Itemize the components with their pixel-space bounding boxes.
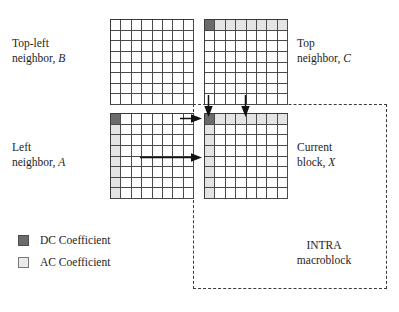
coefficient-cell-zero — [278, 63, 288, 74]
coefficient-cell-zero — [215, 125, 225, 136]
coefficient-cell-zero — [153, 20, 163, 31]
coefficient-cell-zero — [236, 84, 246, 95]
coefficient-cell-zero — [163, 146, 173, 157]
block-grid-top-neighbor — [204, 19, 288, 105]
coefficient-cell-zero — [132, 94, 142, 105]
coefficient-cell-ac — [205, 178, 215, 189]
coefficient-cell-zero — [153, 41, 163, 52]
coefficient-cell-zero — [184, 114, 194, 125]
coefficient-cell-zero — [132, 114, 142, 125]
coefficient-cell-ac — [205, 167, 215, 178]
coefficient-cell-ac — [247, 114, 257, 125]
coefficient-cell-zero — [247, 157, 257, 168]
coefficient-cell-zero — [121, 52, 131, 63]
label-top-neighbor-line1: Top — [297, 36, 351, 51]
coefficient-cell-ac — [215, 20, 225, 31]
coefficient-cell-zero — [184, 63, 194, 74]
coefficient-cell-zero — [226, 84, 236, 95]
coefficient-cell-zero — [205, 52, 215, 63]
coefficient-cell-zero — [236, 52, 246, 63]
coefficient-cell-zero — [173, 20, 183, 31]
label-top-left-neighbor: Top-left neighbor, B — [12, 36, 65, 66]
coefficient-cell-zero — [247, 125, 257, 136]
label-left-neighbor-line2: neighbor, A — [12, 155, 65, 170]
coefficient-cell-zero — [163, 167, 173, 178]
coefficient-cell-ac — [236, 20, 246, 31]
coefficient-cell-zero — [153, 146, 163, 157]
coefficient-cell-zero — [132, 84, 142, 95]
coefficient-cell-zero — [236, 157, 246, 168]
coefficient-cell-zero — [163, 20, 173, 31]
coefficient-cell-dc — [111, 114, 121, 125]
coefficient-cell-zero — [184, 84, 194, 95]
coefficient-cell-zero — [121, 31, 131, 42]
coefficient-cell-zero — [173, 94, 183, 105]
coefficient-cell-zero — [173, 73, 183, 84]
coefficient-cell-zero — [226, 63, 236, 74]
coefficient-cell-zero — [257, 135, 267, 146]
coefficient-cell-zero — [121, 84, 131, 95]
coefficient-cell-dc — [205, 114, 215, 125]
coefficient-cell-zero — [184, 157, 194, 168]
coefficient-cell-zero — [205, 94, 215, 105]
coefficient-cell-zero — [205, 84, 215, 95]
coefficient-cell-zero — [173, 146, 183, 157]
coefficient-cell-zero — [267, 167, 277, 178]
coefficient-cell-zero — [236, 167, 246, 178]
coefficient-cell-zero — [215, 146, 225, 157]
coefficient-cell-ac — [111, 157, 121, 168]
coefficient-cell-zero — [111, 84, 121, 95]
coefficient-cell-zero — [257, 178, 267, 189]
coefficient-cell-zero — [121, 188, 131, 199]
coefficient-cell-zero — [121, 146, 131, 157]
coefficient-cell-zero — [111, 20, 121, 31]
label-current-block-symbol: X — [328, 156, 335, 168]
coefficient-cell-zero — [142, 125, 152, 136]
coefficient-cell-zero — [267, 31, 277, 42]
coefficient-cell-zero — [278, 135, 288, 146]
coefficient-cell-zero — [142, 31, 152, 42]
label-top-left-neighbor-prefix: neighbor, — [12, 52, 58, 64]
coefficient-cell-ac — [267, 114, 277, 125]
ac-coefficient-swatch-icon — [18, 257, 29, 268]
coefficient-cell-zero — [226, 94, 236, 105]
coefficient-cell-zero — [184, 188, 194, 199]
coefficient-cell-zero — [226, 178, 236, 189]
coefficient-cell-ac — [111, 167, 121, 178]
label-intra-macroblock: INTRA macroblock — [272, 238, 376, 268]
coefficient-cell-zero — [184, 52, 194, 63]
coefficient-cell-zero — [163, 135, 173, 146]
coefficient-cell-zero — [267, 84, 277, 95]
coefficient-cell-zero — [267, 146, 277, 157]
coefficient-cell-zero — [247, 73, 257, 84]
coefficient-cell-zero — [184, 41, 194, 52]
coefficient-cell-ac — [247, 20, 257, 31]
coefficient-cell-zero — [247, 52, 257, 63]
coefficient-cell-zero — [132, 135, 142, 146]
coefficient-cell-zero — [236, 31, 246, 42]
coefficient-cell-zero — [257, 146, 267, 157]
coefficient-cell-zero — [247, 146, 257, 157]
coefficient-cell-zero — [236, 135, 246, 146]
coefficient-cell-zero — [257, 73, 267, 84]
coefficient-cell-zero — [278, 84, 288, 95]
coefficient-cell-zero — [132, 157, 142, 168]
dc-coefficient-swatch-icon — [18, 235, 29, 246]
coefficient-cell-zero — [163, 63, 173, 74]
coefficient-cell-zero — [278, 178, 288, 189]
coefficient-cell-zero — [267, 52, 277, 63]
coefficient-cell-zero — [184, 135, 194, 146]
legend-item-dc-label: DC Coefficient — [40, 234, 110, 246]
coefficient-cell-zero — [226, 135, 236, 146]
coefficient-cell-zero — [153, 63, 163, 74]
coefficient-cell-zero — [132, 125, 142, 136]
label-top-left-neighbor-symbol: B — [58, 52, 65, 64]
coefficient-cell-ac — [111, 135, 121, 146]
coefficient-cell-zero — [132, 73, 142, 84]
coefficient-cell-zero — [257, 125, 267, 136]
coefficient-cell-zero — [173, 63, 183, 74]
coefficient-cell-zero — [215, 84, 225, 95]
coefficient-cell-zero — [153, 94, 163, 105]
coefficient-cell-zero — [142, 178, 152, 189]
coefficient-cell-zero — [215, 31, 225, 42]
